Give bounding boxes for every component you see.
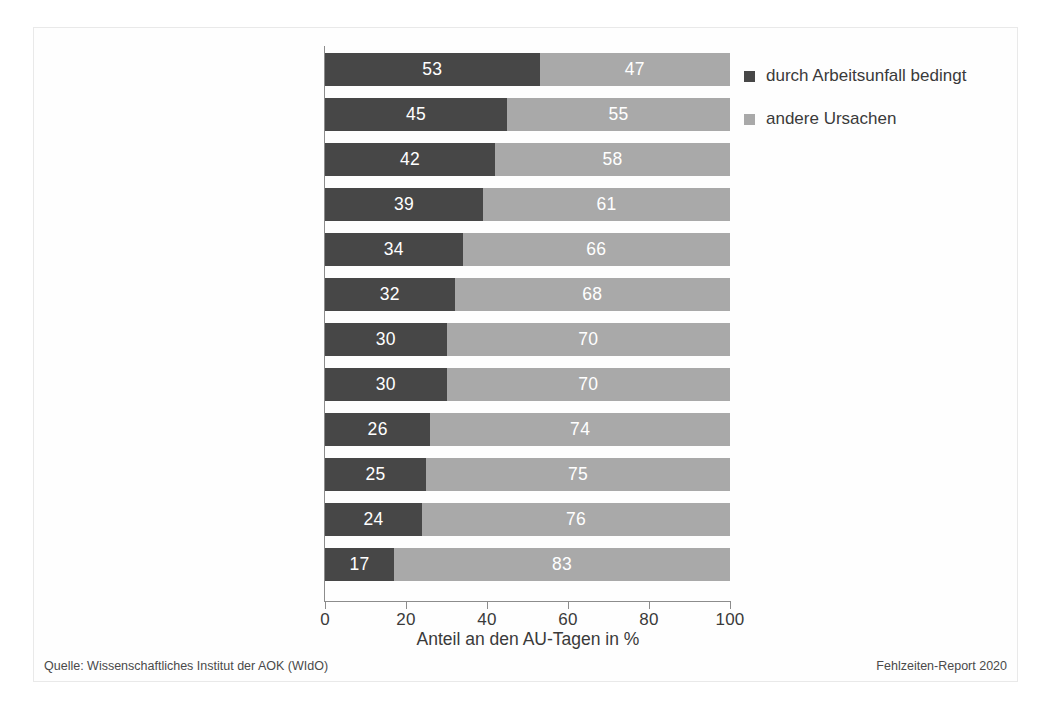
report-note: Fehlzeiten-Report 2020 [876, 659, 1007, 673]
legend-swatch-icon [744, 71, 755, 82]
x-axis-title: Anteil an den AU-Tagen in % [325, 629, 731, 650]
bar-segment-andere-ursachen: 58 [495, 143, 730, 176]
bar-segment-andere-ursachen: 70 [447, 368, 731, 401]
legend-item-andere-ursachen[interactable]: andere Ursachen [744, 109, 896, 129]
bar-segment-arbeitsunfall: 17 [325, 548, 394, 581]
bar-value-label: 25 [366, 464, 386, 485]
bar-segment-arbeitsunfall: 42 [325, 143, 495, 176]
bar-segment-arbeitsunfall: 39 [325, 188, 483, 221]
bar-segment-andere-ursachen: 61 [483, 188, 730, 221]
bar-segment-arbeitsunfall: 53 [325, 53, 540, 86]
bar-value-label: 24 [364, 509, 384, 530]
bar-value-label: 75 [568, 464, 588, 485]
x-tick-label: 40 [457, 610, 517, 630]
bar-value-label: 17 [349, 554, 369, 575]
bar-value-label: 76 [566, 509, 586, 530]
bar-segment-andere-ursachen: 55 [507, 98, 730, 131]
bar-value-label: 32 [380, 284, 400, 305]
bar-value-label: 61 [596, 194, 616, 215]
figure-container: 020406080100 Anteil an den AU-Tagen in %… [0, 0, 1051, 721]
legend-swatch-icon [744, 114, 755, 125]
bar-segment-arbeitsunfall: 30 [325, 368, 447, 401]
bar-value-label: 58 [603, 149, 623, 170]
bar-segment-arbeitsunfall: 45 [325, 98, 507, 131]
bar-segment-andere-ursachen: 70 [447, 323, 731, 356]
bar-value-label: 55 [609, 104, 629, 125]
x-tick [406, 602, 407, 609]
bar-value-label: 70 [578, 374, 598, 395]
bar-value-label: 66 [586, 239, 606, 260]
x-tick-label: 60 [538, 610, 598, 630]
bar-value-label: 70 [578, 329, 598, 350]
x-tick-label: 80 [619, 610, 679, 630]
bar-value-label: 42 [400, 149, 420, 170]
bar-segment-arbeitsunfall: 26 [325, 413, 430, 446]
bar-segment-arbeitsunfall: 25 [325, 458, 426, 491]
bar-segment-andere-ursachen: 75 [426, 458, 730, 491]
bar-value-label: 83 [552, 554, 572, 575]
x-tick [325, 602, 326, 609]
bar-segment-andere-ursachen: 68 [455, 278, 730, 311]
bar-segment-arbeitsunfall: 24 [325, 503, 422, 536]
bar-value-label: 30 [376, 374, 396, 395]
x-tick-label: 0 [295, 610, 355, 630]
bar-value-label: 34 [384, 239, 404, 260]
source-note: Quelle: Wissenschaftliches Institut der … [44, 659, 328, 673]
x-tick-label: 20 [376, 610, 436, 630]
x-tick [649, 602, 650, 609]
bar-value-label: 45 [406, 104, 426, 125]
bar-segment-andere-ursachen: 76 [422, 503, 730, 536]
bar-value-label: 39 [394, 194, 414, 215]
bar-value-label: 53 [422, 59, 442, 80]
x-tick [730, 602, 731, 609]
x-tick [568, 602, 569, 609]
x-tick [487, 602, 488, 609]
bar-segment-andere-ursachen: 74 [430, 413, 730, 446]
bar-segment-andere-ursachen: 66 [463, 233, 730, 266]
bar-segment-andere-ursachen: 83 [394, 548, 730, 581]
legend-item-arbeitsunfall[interactable]: durch Arbeitsunfall bedingt [744, 66, 966, 86]
bar-value-label: 68 [582, 284, 602, 305]
bar-segment-arbeitsunfall: 32 [325, 278, 455, 311]
bar-value-label: 26 [368, 419, 388, 440]
bar-value-label: 74 [570, 419, 590, 440]
legend-label: andere Ursachen [766, 109, 896, 129]
x-axis-line [324, 601, 731, 602]
bar-value-label: 30 [376, 329, 396, 350]
bar-segment-arbeitsunfall: 34 [325, 233, 463, 266]
legend-label: durch Arbeitsunfall bedingt [766, 66, 966, 86]
bar-segment-andere-ursachen: 47 [540, 53, 730, 86]
x-tick-label: 100 [700, 610, 760, 630]
bar-value-label: 47 [625, 59, 645, 80]
bar-segment-arbeitsunfall: 30 [325, 323, 447, 356]
